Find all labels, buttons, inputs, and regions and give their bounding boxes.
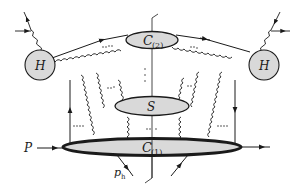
hadron-label: p [114, 166, 121, 179]
collinear-1-subscript: (1) [151, 148, 162, 157]
proton-label: P [23, 141, 33, 155]
ellipsis-dots-bottom [73, 125, 227, 129]
hadron-subscript: h [121, 173, 126, 181]
hard-left-label: H [34, 59, 46, 73]
gluon-c2-to-h-right [172, 47, 232, 58]
ellipsis-dots-center [144, 68, 145, 81]
gluon-h-left-to-c2 [55, 50, 121, 62]
soft-label: S [147, 100, 155, 114]
soft-blob: S [115, 97, 189, 116]
hard-right-label: H [258, 59, 270, 73]
lepton-left [15, 12, 31, 31]
collinear-blob-2: C (2) [126, 32, 178, 51]
hard-blob-right: H [249, 50, 279, 80]
lepton-right [271, 12, 290, 31]
lower-right-line [171, 155, 188, 176]
hard-blob-left: H [25, 50, 55, 80]
factorization-diagram: C (2) H H S C (1) P p h [0, 0, 304, 189]
collinear-2-subscript: (2) [152, 41, 163, 50]
